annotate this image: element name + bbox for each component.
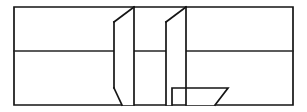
left-panel-face [114,7,134,105]
left-folded-panel [114,7,134,105]
canvas-background [0,0,307,112]
figure-container: Perspective line drawing of folded panel… [0,0,307,112]
line-drawing-canvas [0,0,307,112]
